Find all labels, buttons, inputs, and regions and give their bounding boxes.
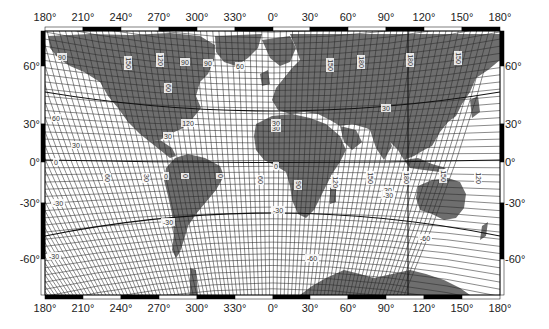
grid-label: 90 [295, 181, 302, 189]
grid-label: 30 [164, 133, 172, 140]
frame-segment [310, 295, 348, 299]
grid-label: 150 [440, 170, 447, 182]
longitude-tick-label: 60° [340, 12, 357, 23]
grid-label: 0 [54, 159, 58, 166]
frame-segment [462, 295, 500, 299]
grid-label: -30 [49, 253, 59, 260]
grid-label: 120 [182, 120, 194, 127]
frame-segment [41, 259, 45, 295]
grid-label: 0 [182, 174, 189, 178]
grid-label: 30 [272, 120, 280, 127]
grid-label: 150 [367, 172, 374, 184]
frame-segment [273, 295, 310, 299]
frame-segment [159, 295, 197, 299]
frame-segment [159, 27, 197, 31]
frame-segment [45, 295, 83, 299]
longitude-tick-label: 0° [268, 303, 279, 314]
frame-segment [41, 31, 45, 66]
grid-label: 60 [257, 176, 264, 184]
latitude-tick-label: 60° [505, 61, 522, 72]
longitude-tick-label: 210° [72, 12, 95, 23]
frame-segment [424, 295, 462, 299]
frame-segment [348, 27, 386, 31]
frame-segment [500, 66, 504, 124]
grid-label: 120 [332, 176, 339, 188]
frame-segment [310, 27, 348, 31]
longitude-tick-label: 120° [413, 12, 436, 23]
grid-label: 0 [217, 174, 224, 178]
latitude-tick-label: -30° [4, 198, 40, 209]
grid-label: -60 [307, 255, 317, 262]
frame-segment [197, 27, 235, 31]
world-map-figure: 9015012090906015018018015060120603030303… [0, 0, 549, 329]
grid-label: -30 [53, 200, 63, 207]
frame-segment [41, 66, 45, 124]
latitude-tick-label: 0° [505, 157, 516, 168]
grid-label: 60 [104, 174, 111, 182]
longitude-tick-label: 300° [186, 303, 209, 314]
grid-label: 90 [204, 60, 212, 67]
grid-label: 120 [475, 172, 482, 184]
longitude-tick-label: 180° [489, 303, 512, 314]
frame-segment [500, 31, 504, 66]
frame-segment [273, 27, 310, 31]
longitude-tick-label: 330° [224, 12, 247, 23]
frame-segment [197, 295, 235, 299]
longitude-tick-label: 180° [489, 12, 512, 23]
frame-segment [235, 27, 273, 31]
frame-segment [500, 162, 504, 203]
longitude-tick-label: 30° [302, 12, 319, 23]
longitude-tick-label: 330° [224, 303, 247, 314]
longitude-tick-label: 120° [413, 303, 436, 314]
latitude-tick-label: 30° [4, 119, 40, 130]
frame-segment [424, 27, 462, 31]
frame-segment [235, 295, 273, 299]
longitude-tick-label: 180° [34, 12, 57, 23]
longitude-tick-label: 150° [451, 303, 474, 314]
grid-label: 180 [358, 56, 365, 68]
grid-label: 60 [236, 63, 244, 70]
frame-segment [41, 124, 45, 162]
latitude-tick-label: -60° [4, 254, 40, 265]
frame-segment [45, 27, 83, 31]
latitude-tick-label: 0° [4, 157, 40, 168]
frame-segment [348, 295, 386, 299]
grid-label: -30 [163, 219, 173, 226]
frame-segment [83, 27, 121, 31]
frame-segment [386, 295, 424, 299]
latitude-tick-label: -60° [505, 254, 525, 265]
longitude-tick-label: 240° [110, 303, 133, 314]
latitude-tick-label: 60° [4, 61, 40, 72]
longitude-tick-label: 240° [110, 12, 133, 23]
grid-label: 30 [382, 105, 390, 112]
longitude-tick-label: 270° [148, 303, 171, 314]
grid-label: 0 [164, 173, 168, 180]
grid-label: -30 [273, 207, 283, 214]
longitude-tick-label: 210° [72, 303, 95, 314]
grid-label: 150 [327, 59, 334, 71]
longitude-tick-label: 60° [340, 303, 357, 314]
frame-segment [500, 124, 504, 162]
grid-label: 30 [72, 142, 80, 149]
longitude-tick-label: 300° [186, 12, 209, 23]
grid-label: 0 [274, 163, 278, 170]
frame-segment [500, 259, 504, 295]
grid-label: 150 [125, 57, 132, 69]
frame-segment [41, 162, 45, 203]
longitude-tick-label: 180° [34, 303, 57, 314]
longitude-tick-label: 90° [378, 12, 395, 23]
frame-segment [500, 203, 504, 259]
map-canvas: 9015012090906015018018015060120603030303… [0, 0, 549, 329]
grid-label: 90 [181, 59, 189, 66]
frame-segment [386, 27, 424, 31]
longitude-tick-label: 30° [302, 303, 319, 314]
longitude-tick-label: 90° [378, 303, 395, 314]
grid-label: 180 [407, 54, 414, 66]
grid-label: 180 [403, 172, 410, 184]
longitude-tick-label: 150° [451, 12, 474, 23]
frame-segment [121, 27, 159, 31]
frame-segment [121, 295, 159, 299]
longitude-tick-label: 0° [268, 12, 279, 23]
grid-label: 150 [455, 52, 462, 64]
grid-label: -30 [383, 192, 393, 199]
